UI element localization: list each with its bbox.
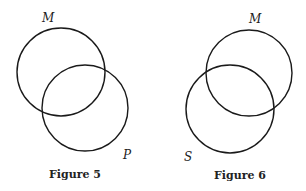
figure-5: M P Figure 5: [17, 11, 132, 181]
label-m-fig5: M: [41, 11, 55, 25]
label-m-fig6: M: [248, 12, 262, 26]
label-s-fig6: S: [184, 150, 192, 164]
circle-s-fig6: [186, 65, 274, 153]
label-p-fig5: P: [122, 148, 132, 162]
caption-fig6: Figure 6: [214, 169, 266, 182]
caption-fig5: Figure 5: [49, 168, 101, 181]
circle-m-fig6: [206, 30, 292, 116]
figure-6: M S Figure 6: [184, 12, 292, 182]
venn-diagrams: M P Figure 5 M S Figure 6: [0, 0, 306, 191]
circle-p-fig5: [42, 65, 128, 151]
